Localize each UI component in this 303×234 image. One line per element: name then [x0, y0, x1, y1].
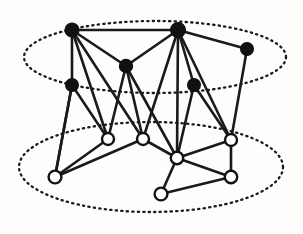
figure-container — [0, 0, 303, 234]
edge-w4-w6 — [177, 158, 231, 177]
hollow-node-right-lower — [225, 171, 237, 183]
lower-layer-ellipse — [19, 122, 283, 212]
hollow-node-left-lower — [49, 171, 62, 184]
edge-b5-w1 — [72, 85, 108, 139]
edge-b4-w1 — [108, 66, 126, 139]
edge-b6-w4 — [177, 85, 194, 158]
hollow-node-left-upper — [102, 133, 114, 145]
edge-b1-b4 — [72, 30, 126, 66]
filled-node-top-left — [65, 23, 79, 37]
edge-b2-w4 — [177, 30, 178, 158]
filled-node-mid-center — [119, 59, 132, 72]
edge-b2-b4 — [126, 30, 178, 66]
edge-b1-w2 — [72, 30, 143, 139]
graph-canvas — [0, 0, 303, 234]
edge-b3-w3 — [231, 49, 247, 140]
hollow-node-center-upper — [137, 133, 149, 145]
hollow-node-center-hub — [171, 152, 183, 164]
filled-node-mid-right — [188, 79, 201, 92]
edge-w6-w7 — [161, 177, 231, 194]
hollow-node-right-upper — [225, 134, 237, 146]
graph-edge-group — [55, 30, 247, 194]
filled-node-mid-left — [66, 79, 79, 92]
edge-b5-w5b — [55, 85, 72, 177]
edge-b2-b3 — [178, 30, 247, 49]
filled-node-top-right — [241, 43, 254, 56]
edge-b6-w3 — [194, 85, 231, 140]
edge-w3-w4 — [177, 140, 231, 158]
filled-node-top-center — [171, 23, 186, 38]
hollow-node-bottom — [155, 188, 168, 201]
